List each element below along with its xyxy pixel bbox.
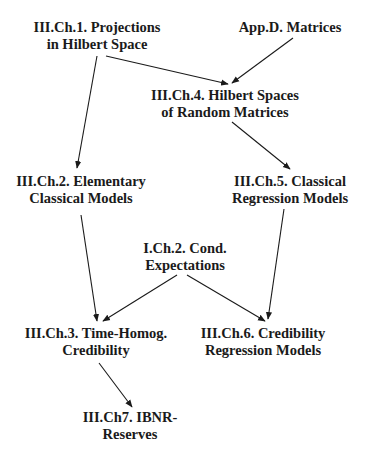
edge-appd-to-ch4 xyxy=(232,38,293,83)
node-ch2-elementary-classical-models: III.Ch.2. Elementary Classical Models xyxy=(16,173,146,207)
edge-ch3-to-ch7 xyxy=(99,363,132,407)
edge-ch2-to-ch3 xyxy=(81,215,97,321)
edge-ch5-to-ch6 xyxy=(268,209,284,319)
node-label-line1: III.Ch.4. Hilbert Spaces xyxy=(151,87,299,104)
node-ch4-hilbert-spaces-random-matrices: III.Ch.4. Hilbert Spaces of Random Matri… xyxy=(151,87,299,121)
node-appd-matrices: App.D. Matrices xyxy=(239,19,342,36)
node-label-line1: III.Ch7. IBNR- xyxy=(83,409,178,426)
node-label-line1: III.Ch.2. Elementary xyxy=(16,173,146,190)
node-label-line1: III.Ch.5. Classical xyxy=(232,173,348,190)
edge-ch4-to-ch5 xyxy=(232,122,290,169)
node-label-line2: Classical Models xyxy=(16,190,146,207)
node-label-line1: III.Ch.3. Time-Homog. xyxy=(25,325,167,342)
node-label-line1: III.Ch.6. Credibility xyxy=(201,325,326,342)
node-ch6-credibility-regression-models: III.Ch.6. Credibility Regression Models xyxy=(201,325,326,359)
edge-ich2-to-ch6 xyxy=(187,275,265,321)
edges-layer xyxy=(0,0,366,459)
dependency-diagram: III.Ch.1. Projections in Hilbert Space A… xyxy=(0,0,366,459)
edge-ch1-to-ch2 xyxy=(77,56,97,168)
edge-ch1-to-ch4 xyxy=(106,56,228,84)
node-label-line2: Reserves xyxy=(83,426,178,443)
node-label-line2: of Random Matrices xyxy=(151,104,299,121)
node-label-line2: Regression Models xyxy=(201,342,326,359)
node-ch1-projections-hilbert-space: III.Ch.1. Projections in Hilbert Space xyxy=(33,19,160,53)
node-label-line2: Credibility xyxy=(25,342,167,359)
node-label-line2: in Hilbert Space xyxy=(33,36,160,53)
node-ch3-time-homog-credibility: III.Ch.3. Time-Homog. Credibility xyxy=(25,325,167,359)
edge-ich2-to-ch3 xyxy=(103,275,177,321)
node-ich2-cond-expectations: I.Ch.2. Cond. Expectations xyxy=(143,240,226,274)
node-label-line1: App.D. Matrices xyxy=(239,19,342,36)
node-ch5-classical-regression-models: III.Ch.5. Classical Regression Models xyxy=(232,173,348,207)
node-label-line2: Expectations xyxy=(143,257,226,274)
node-ch7-ibnr-reserves: III.Ch7. IBNR- Reserves xyxy=(83,409,178,443)
node-label-line2: Regression Models xyxy=(232,190,348,207)
node-label-line1: III.Ch.1. Projections xyxy=(33,19,160,36)
node-label-line1: I.Ch.2. Cond. xyxy=(143,240,226,257)
